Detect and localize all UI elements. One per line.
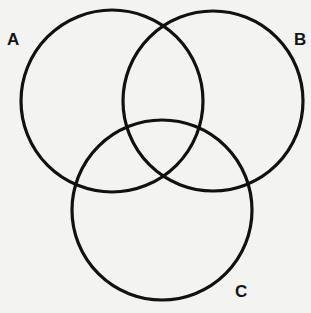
set-c-circle [72,120,252,300]
set-b-label: B [294,31,306,48]
set-a-circle [21,10,203,192]
set-b-circle [123,11,303,191]
set-a-label: A [7,31,19,48]
set-c-label: C [235,283,247,300]
venn-diagram [0,0,311,313]
